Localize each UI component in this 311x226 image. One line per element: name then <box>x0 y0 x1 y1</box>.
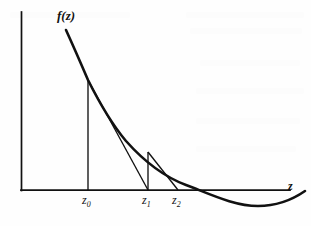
tick-label-z0: z0 <box>82 194 91 208</box>
tick-label-z2-subscript: 2 <box>177 200 181 209</box>
curve-label-fz: f(z) <box>57 9 75 22</box>
figure-canvas <box>0 0 311 226</box>
tick-label-z1: z1 <box>142 194 151 208</box>
axes-group <box>21 12 290 191</box>
tick-label-z2: z2 <box>172 194 181 208</box>
newton-method-figure: f(z) z z0 z1 z2 <box>0 0 311 226</box>
tangent-line-z1 <box>148 152 178 190</box>
tick-label-z0-subscript: 0 <box>87 200 91 209</box>
x-axis-label: z <box>288 180 293 192</box>
function-curve-group <box>66 30 305 206</box>
tick-label-z1-subscript: 1 <box>147 200 151 209</box>
function-curve-fz <box>66 30 305 206</box>
